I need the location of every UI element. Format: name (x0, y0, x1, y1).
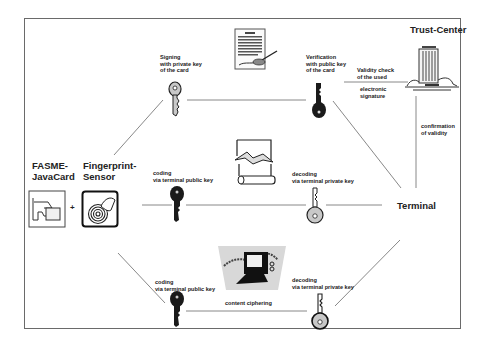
scroll-icon (233, 136, 277, 186)
decoding-key-icon (305, 187, 325, 225)
document-signing-icon (233, 27, 279, 73)
decoding-bottom-label: decoding via terminal private key (292, 277, 354, 290)
computer-icon (216, 244, 288, 292)
verification-label: Verification with public key of the card (306, 54, 346, 74)
content-ciphering-label: content ciphering (225, 300, 272, 307)
electronic-signature-label: electronic signature (360, 86, 386, 99)
card-label: FASME- JavaCard (32, 160, 75, 182)
coding-key-bottom-icon (168, 290, 186, 328)
trust-center-label: Trust-Center (410, 24, 466, 35)
decoding-mid-label: decoding via terminal private key (292, 171, 354, 184)
decoding-key-bottom-icon (310, 293, 330, 331)
confirmation-label: confirmation of validity (421, 123, 455, 136)
coding-key-icon (168, 185, 186, 223)
office-building-icon (405, 42, 460, 94)
terminal-label: Terminal (397, 200, 436, 211)
verification-key-icon (310, 82, 328, 120)
signing-key-icon (168, 81, 184, 117)
sensor-label: Fingerprint- Sensor (83, 160, 136, 182)
smartcard-icon (28, 190, 66, 228)
plus-sign: + (70, 205, 75, 212)
signing-label: Signing with private key of the card (160, 54, 202, 74)
coding-mid-label: coding via terminal public key (153, 170, 213, 183)
fingerprint-icon (81, 190, 119, 228)
validity-check-label: Validity check of the used (357, 67, 394, 80)
